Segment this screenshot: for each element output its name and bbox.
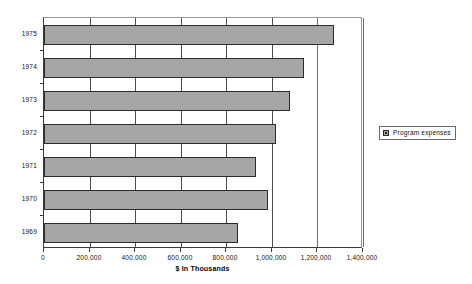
bar-row (44, 190, 363, 210)
bar-row (44, 91, 363, 111)
x-axis-tick-mark (316, 248, 317, 252)
y-axis-tick-mark (40, 182, 43, 183)
chart-legend: Program expenses (379, 126, 456, 140)
y-axis-tick-label: 1975 (0, 30, 37, 37)
y-axis-tick-mark (40, 215, 43, 216)
x-axis-tick-mark (43, 248, 44, 252)
y-axis-tick-label: 1971 (0, 162, 37, 169)
y-axis-tick-label: 1974 (0, 63, 37, 70)
bar-1975 (44, 25, 334, 45)
bar-row (44, 223, 363, 243)
y-axis-tick-label: 1969 (0, 228, 37, 235)
y-axis-tick-label: 1973 (0, 96, 37, 103)
x-axis-tick-label: 600,000 (155, 254, 205, 262)
bar-row (44, 58, 363, 78)
bar-1969 (44, 223, 238, 243)
x-axis-tick-mark (134, 248, 135, 252)
x-axis-tick-mark (271, 248, 272, 252)
y-axis-tick-mark (40, 116, 43, 117)
y-axis-tick-mark (40, 149, 43, 150)
bar-chart: 1975197419731972197119701969 0200,000400… (0, 0, 472, 284)
bar-1970 (44, 190, 268, 210)
bar-row (44, 25, 363, 45)
x-axis-tick-label: 400,000 (109, 254, 159, 262)
gridline (363, 18, 364, 247)
x-axis-title: $ In Thousands (43, 265, 362, 272)
x-axis-tick-label: 1,000,000 (246, 254, 296, 262)
x-axis-tick-mark (180, 248, 181, 252)
y-axis-tick-mark (40, 83, 43, 84)
legend-label: Program expenses (393, 129, 451, 137)
y-axis-tick-label: 1972 (0, 129, 37, 136)
y-axis-tick-label: 1970 (0, 195, 37, 202)
x-axis-tick-label: 0 (18, 254, 68, 262)
x-axis-tick-label: 200,000 (64, 254, 114, 262)
bar-1972 (44, 124, 276, 144)
x-axis-tick-mark (362, 248, 363, 252)
bar-1971 (44, 157, 256, 177)
bar-1974 (44, 58, 304, 78)
plot-area (43, 17, 362, 248)
x-axis-tick-label: 800,000 (200, 254, 250, 262)
y-axis-tick-mark (40, 50, 43, 51)
x-axis-tick-label: 1,400,000 (337, 254, 387, 262)
x-axis-tick-mark (89, 248, 90, 252)
bar-1973 (44, 91, 290, 111)
x-axis-tick-label: 1,200,000 (291, 254, 341, 262)
x-axis-tick-mark (225, 248, 226, 252)
bar-row (44, 124, 363, 144)
legend-swatch-icon (383, 130, 389, 136)
bar-row (44, 157, 363, 177)
